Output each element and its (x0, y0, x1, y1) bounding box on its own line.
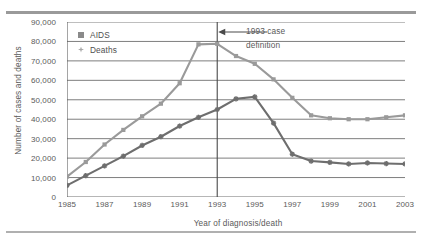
marker-deaths (158, 134, 163, 139)
chart-figure: Number of cases and deaths Year of diagn… (0, 0, 422, 239)
series-line-deaths (67, 97, 405, 185)
square-marker-icon (78, 32, 84, 38)
marker-aids (121, 128, 125, 132)
x-tick-label: 1989 (133, 200, 151, 209)
legend-item-aids: AIDS (78, 28, 117, 41)
marker-aids (159, 102, 163, 106)
y-tick-label: 50,000 (31, 95, 63, 104)
marker-deaths (384, 161, 389, 166)
marker-aids (140, 114, 144, 118)
marker-aids (196, 42, 200, 46)
marker-aids (271, 77, 275, 81)
marker-deaths (402, 161, 405, 166)
chart-canvas (67, 22, 405, 197)
star-marker-icon (78, 47, 84, 53)
marker-deaths (365, 160, 370, 165)
marker-deaths (346, 161, 351, 166)
marker-aids (215, 42, 219, 46)
x-tick-label: 1987 (95, 200, 113, 209)
legend-item-deaths: Deaths (78, 43, 117, 56)
marker-aids (290, 96, 294, 100)
figure-top-rule (6, 11, 416, 14)
marker-deaths (309, 158, 314, 163)
y-tick-label: 80,000 (31, 37, 63, 46)
y-tick-label: 10,000 (31, 173, 63, 182)
annotation-arrow-head (218, 29, 225, 35)
marker-aids (253, 62, 257, 66)
y-tick-label: 60,000 (31, 76, 63, 85)
marker-aids (178, 81, 182, 85)
marker-deaths (271, 121, 276, 126)
plot-area (67, 22, 405, 197)
x-tick-label: 1993 (208, 200, 226, 209)
marker-aids (102, 142, 106, 146)
marker-aids (309, 113, 313, 117)
marker-deaths (327, 160, 332, 165)
marker-aids (365, 117, 369, 121)
marker-aids (347, 117, 351, 121)
x-tick-label: 2001 (358, 200, 376, 209)
x-tick-label: 2003 (396, 200, 414, 209)
marker-aids (84, 160, 88, 164)
marker-deaths (140, 143, 145, 148)
marker-aids (234, 54, 238, 58)
chart-legend: AIDS Deaths (78, 28, 117, 58)
annotation-1993-case-definition: 1993 case definition (246, 24, 285, 52)
marker-aids (384, 115, 388, 119)
x-tick-label: 1999 (321, 200, 339, 209)
x-tick-label: 1997 (283, 200, 301, 209)
marker-deaths (177, 123, 182, 128)
x-tick-label: 1985 (58, 200, 76, 209)
figure-bottom-rule (6, 231, 416, 233)
marker-aids (403, 113, 405, 117)
x-tick-label: 1995 (246, 200, 264, 209)
y-axis-tick-labels: 010,00020,00030,00040,00050,00060,00070,… (0, 22, 63, 197)
y-tick-label: 90,000 (31, 18, 63, 27)
y-tick-label: 40,000 (31, 115, 63, 124)
x-axis-title: Year of diagnosis/death (68, 219, 408, 228)
marker-deaths (252, 94, 257, 99)
y-tick-label: 70,000 (31, 56, 63, 65)
y-tick-label: 20,000 (31, 154, 63, 163)
x-tick-label: 1991 (171, 200, 189, 209)
series-line-aids (67, 44, 405, 177)
marker-aids (67, 174, 69, 178)
annotation-line-2: definition (246, 38, 285, 52)
marker-deaths (196, 115, 201, 120)
marker-aids (328, 116, 332, 120)
annotation-line-1: 1993 case (246, 24, 285, 38)
legend-label-aids: AIDS (90, 30, 110, 40)
y-tick-label: 30,000 (31, 134, 63, 143)
legend-label-deaths: Deaths (90, 45, 117, 55)
